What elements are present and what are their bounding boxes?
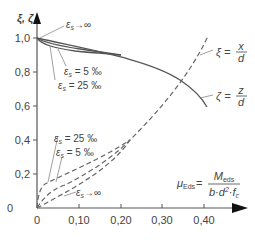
leader-lines <box>40 26 213 196</box>
x-tick-label: 0,10 <box>68 214 89 226</box>
svg-text:ζ =: ζ = <box>216 90 231 103</box>
x-tick-label: 0 <box>34 214 40 226</box>
zeta-curves <box>37 38 207 107</box>
annotation-eps-25-top: εs = 25 ‰ <box>58 80 101 92</box>
x-tick-label: 0,40 <box>193 214 214 226</box>
y-tick-label: 0,4 <box>15 134 30 146</box>
axes <box>37 20 240 208</box>
svg-text:b·d2·fc: b·d2·fc <box>209 186 240 199</box>
annotation-eps-5-bottom: εs = 5 ‰ <box>56 147 94 159</box>
y-axis-label: ξ, ζ <box>17 12 34 25</box>
svg-text:ξ =: ξ = <box>216 46 231 59</box>
annotation-eps-inf-top: εs→∞ <box>66 19 91 31</box>
annotation-eps-5-top: εs = 5 ‰ <box>64 66 102 78</box>
svg-text:x: x <box>237 40 244 52</box>
svg-text:μEds=: μEds= <box>176 177 203 190</box>
chart: 1,0 0,8 0,6 0,4 0,2 0 0 0,10 0,20 0,30 0… <box>0 0 255 240</box>
x-tick-label: 0,30 <box>151 214 172 226</box>
x-tick-label: 0,20 <box>110 214 131 226</box>
zeta-formula: ζ = z d <box>216 84 247 108</box>
y-tick-label: 0,6 <box>15 100 30 112</box>
annotation-eps-inf-bottom: εs→∞ <box>76 187 101 199</box>
y-tick-label: 0,8 <box>15 66 30 78</box>
y-tick-label: 1,0 <box>15 32 30 44</box>
svg-text:d: d <box>238 96 245 108</box>
svg-text:d: d <box>238 52 245 64</box>
svg-text:Meds: Meds <box>214 170 235 183</box>
y-axis-arrow-icon <box>33 12 41 24</box>
xi-formula: ξ = x d <box>216 40 247 64</box>
mu-formula: μEds= Meds b·d2·fc <box>176 170 240 199</box>
y-tick-label: 0,2 <box>15 168 30 180</box>
y-tick-label: 0 <box>7 202 13 214</box>
annotation-eps-25-bottom: εs = 25 ‰ <box>54 133 97 145</box>
x-axis-arrow-icon <box>232 203 248 213</box>
svg-text:z: z <box>237 84 244 96</box>
